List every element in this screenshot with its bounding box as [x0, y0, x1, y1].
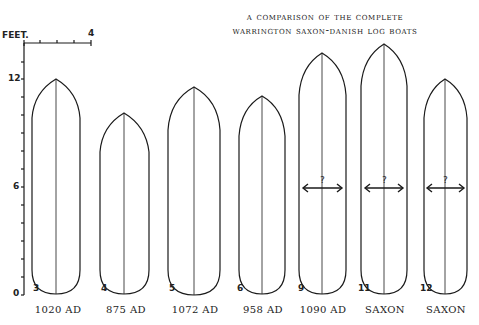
boat-number-6: 6 [237, 283, 243, 293]
boat-number-3: 3 [33, 283, 39, 293]
boat-date-9: 1090 AD [288, 304, 358, 315]
boat-4-outline [100, 113, 149, 294]
boat-number-4: 4 [101, 283, 107, 293]
boat-date-4: 875 AD [91, 304, 161, 315]
boat-5-outline [168, 87, 220, 295]
boat-date-12: SAXON [411, 304, 479, 315]
boat-6-outline [239, 96, 285, 294]
beam-unknown-arrow-12 [427, 184, 464, 192]
y-axis [21, 43, 24, 295]
beam-unknown-label-9: ? [320, 175, 325, 185]
beam-unknown-label-12: ? [443, 175, 448, 185]
boat-11-outline [361, 44, 407, 294]
boat-12-outline [424, 79, 467, 294]
scale-bar [24, 40, 91, 46]
boat-number-9: 9 [298, 283, 304, 293]
boat-date-3: 1020 AD [23, 304, 93, 315]
boat-number-12: 12 [420, 283, 433, 293]
boat-number-11: 11 [358, 283, 371, 293]
boat-3-outline [32, 79, 80, 294]
boat-9-outline [299, 53, 346, 294]
beam-unknown-label-11: ? [382, 175, 387, 185]
log-boats-drawing [0, 0, 479, 325]
boat-date-11: SAXON [350, 304, 420, 315]
boat-number-5: 5 [169, 283, 175, 293]
boat-date-5: 1072 AD [160, 304, 230, 315]
beam-unknown-arrow-9 [303, 184, 342, 192]
